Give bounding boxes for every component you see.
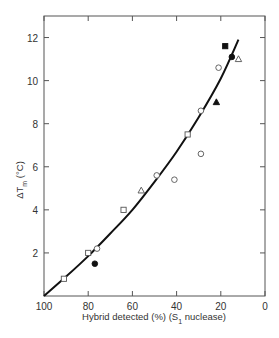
point-open-circle [198,151,204,157]
point-open-circle [198,108,204,114]
x-tick-label: 100 [36,301,53,312]
y-tick-label: 4 [32,205,38,216]
point-open-circle [172,177,178,183]
point-open-triangle [235,56,241,62]
point-open-circle [216,65,222,71]
point-open-square [86,250,91,255]
fit-curve [44,40,238,296]
x-tick-label: 0 [262,301,268,312]
point-open-square [185,132,190,137]
point-open-square [61,276,66,281]
point-open-circle [154,173,160,179]
y-tick-label: 6 [32,162,38,173]
data-points [61,44,241,282]
point-open-square [121,207,126,212]
tick-labels: 10080604020024681012 [27,33,268,312]
y-tick-label: 2 [32,248,38,259]
point-open-triangle [138,187,144,193]
y-tick-label: 12 [27,33,39,44]
point-open-circle [94,246,100,252]
point-filled-circle [229,54,235,60]
x-axis-label: Hybrid detected (%) (S1 nuclease) [82,311,226,325]
chart: 10080604020024681012 Hybrid detected (%)… [0,0,279,338]
point-filled-triangle [213,99,219,105]
y-tick-label: 10 [27,76,39,87]
point-filled-circle [92,261,98,267]
y-axis-label: ΔTm (°C) [14,161,28,199]
point-filled-square [223,44,228,49]
y-tick-label: 8 [32,119,38,130]
